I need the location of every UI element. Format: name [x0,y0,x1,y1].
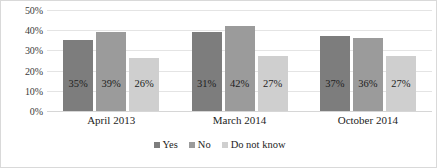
bar[interactable]: 36% [353,38,383,111]
legend-label: Do not know [231,139,286,150]
legend-item-yes[interactable]: Yes [154,139,178,150]
bar-value-label: 26% [135,78,154,89]
bar-value-label: 36% [358,78,377,89]
legend-swatch-icon [189,142,195,148]
legend-swatch-icon [222,142,228,148]
bar-group: 35%39%26% [63,10,159,111]
y-tick-label: 20% [25,65,43,76]
plot-area: 35%39%26%31%42%27%37%36%27% [47,10,432,111]
axis-baseline [47,111,432,112]
bar[interactable]: 27% [386,56,416,111]
bar-value-label: 42% [230,78,249,89]
y-tick-label: 0% [30,106,43,117]
bar[interactable]: 42% [225,26,255,111]
bar-value-label: 35% [69,78,88,89]
bar-value-label: 39% [102,78,121,89]
legend-item-do-not-know[interactable]: Do not know [222,139,286,150]
bar-value-label: 31% [197,78,216,89]
bar-value-label: 37% [325,78,344,89]
x-axis: April 2013 March 2014 October 2014 [47,114,432,132]
bar[interactable]: 27% [258,56,288,111]
category-label: October 2014 [338,114,398,126]
legend-label: Yes [163,139,178,150]
bar-chart: 50% 40% 30% 20% 10% 0% 35%39%26%31%42%27… [0,0,437,168]
y-tick-label: 50% [25,5,43,16]
bar-value-label: 27% [263,78,282,89]
bar[interactable]: 39% [96,32,126,111]
bar-group: 31%42%27% [192,10,288,111]
chart-legend: Yes No Do not know [1,139,437,150]
bar-value-label: 27% [391,78,410,89]
bar[interactable]: 37% [320,36,350,111]
legend-item-no[interactable]: No [189,139,211,150]
y-tick-label: 30% [25,45,43,56]
bar[interactable]: 35% [63,40,93,111]
legend-label: No [198,139,211,150]
category-label: March 2014 [213,114,266,126]
bar[interactable]: 31% [192,32,222,111]
category-label: April 2013 [87,114,135,126]
bar-group: 37%36%27% [320,10,416,111]
bar[interactable]: 26% [129,58,159,111]
legend-swatch-icon [154,142,160,148]
y-tick-label: 10% [25,85,43,96]
y-axis: 50% 40% 30% 20% 10% 0% [1,10,43,111]
y-tick-label: 40% [25,25,43,36]
